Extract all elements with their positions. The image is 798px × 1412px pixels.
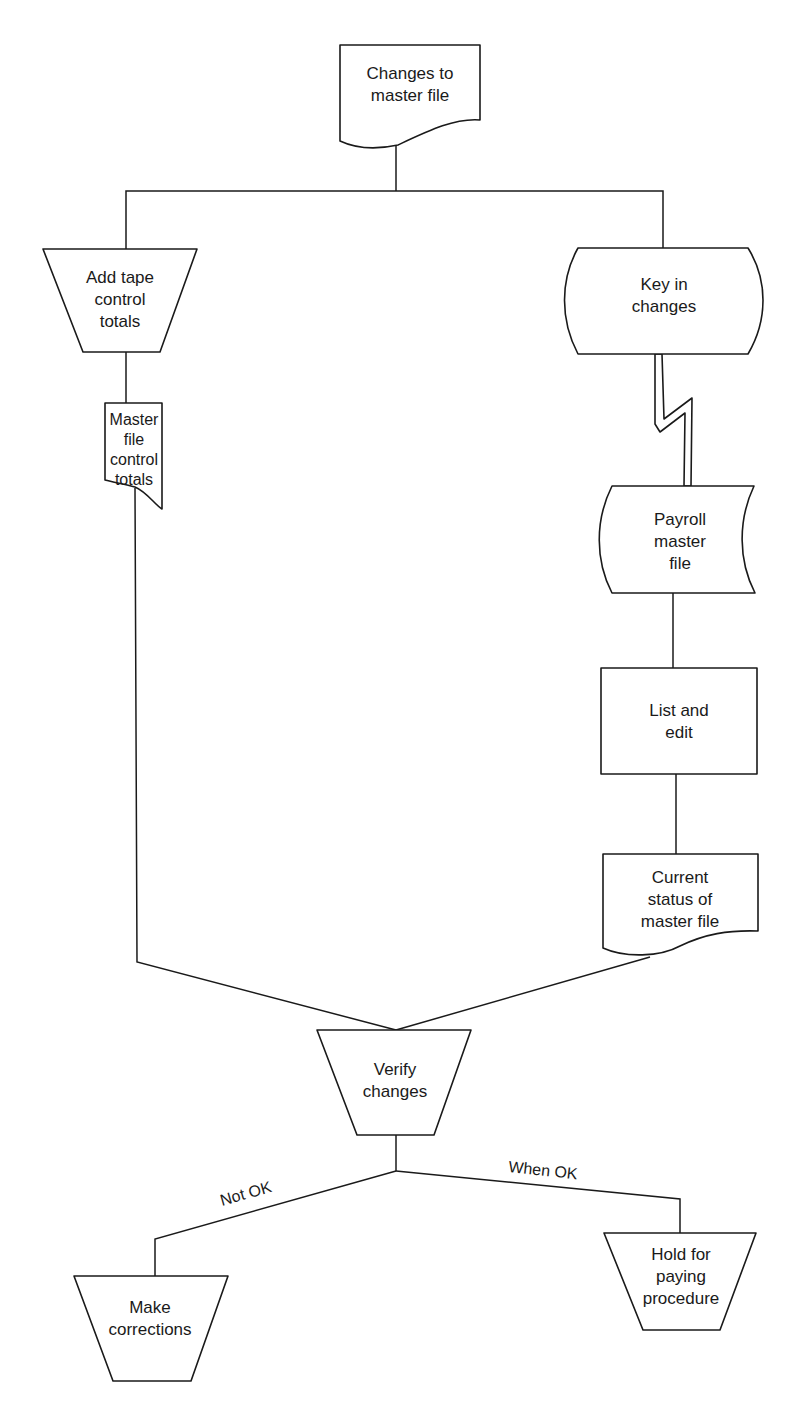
node-text: file: [124, 431, 145, 448]
node-changes-to-master-file: Changes tomaster file: [340, 45, 480, 148]
node-text: totals: [115, 471, 153, 488]
node-key-in-changes: Key inchanges: [565, 248, 764, 354]
node-master-file-control-totals: Masterfilecontroltotals: [105, 403, 162, 509]
node-text: Make: [129, 1298, 171, 1317]
node-text: control: [110, 451, 158, 468]
svg-text:Currentstatus ofmaster file: Currentstatus ofmaster file: [641, 868, 719, 931]
connector-status-verify: [396, 957, 650, 1030]
node-text: Verify: [374, 1060, 417, 1079]
node-text: master: [654, 532, 706, 551]
connector-branch-bar: [126, 191, 663, 249]
node-text: status of: [648, 890, 713, 909]
node-text: Key in: [640, 275, 687, 294]
process-shape: [601, 668, 757, 774]
edge-label-not-ok: Not OK: [218, 1178, 273, 1209]
node-text: control: [94, 290, 145, 309]
node-text: Master: [110, 411, 160, 428]
node-text: paying: [656, 1267, 706, 1286]
node-add-tape-control-totals: Add tapecontroltotals: [43, 249, 197, 352]
node-text: Payroll: [654, 510, 706, 529]
node-current-status: Currentstatus ofmaster file: [603, 854, 758, 955]
node-text: totals: [100, 312, 141, 331]
communication-link-icon: [655, 354, 692, 486]
connector-totals-verify: [135, 488, 396, 1030]
node-hold-for-paying-procedure: Hold forpayingprocedure: [604, 1233, 756, 1330]
node-text: file: [669, 554, 691, 573]
node-verify-changes: Verifychanges: [317, 1030, 471, 1135]
node-list-and-edit: List andedit: [601, 668, 757, 774]
node-payroll-master-file: Payrollmasterfile: [599, 486, 755, 593]
node-make-corrections: Makecorrections: [74, 1276, 228, 1381]
node-text: Changes to: [367, 64, 454, 83]
node-text: corrections: [108, 1320, 191, 1339]
node-text: procedure: [643, 1289, 720, 1308]
node-text: master file: [371, 86, 449, 105]
node-text: Hold for: [651, 1245, 711, 1264]
connector-not-ok: [155, 1171, 396, 1276]
node-text: Current: [652, 868, 709, 887]
node-text: changes: [363, 1082, 427, 1101]
edge-label-when-ok: When OK: [508, 1158, 579, 1182]
node-text: edit: [665, 723, 693, 742]
flowchart-canvas: Changes tomaster file Add tapecontroltot…: [0, 0, 798, 1412]
node-text: Add tape: [86, 268, 154, 287]
node-text: List and: [649, 701, 709, 720]
node-text: changes: [632, 297, 696, 316]
connector-when-ok: [396, 1171, 680, 1233]
node-text: master file: [641, 912, 719, 931]
